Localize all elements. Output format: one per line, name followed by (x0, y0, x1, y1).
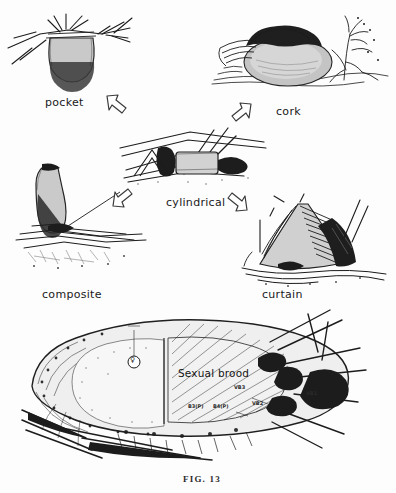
panel-cork-illustration (212, 10, 390, 92)
annotation-b4p: B4(P) (213, 403, 229, 409)
panel-pocket-illustration (6, 8, 136, 88)
panel-label-cylindrical: cylindrical (166, 196, 225, 209)
arrow-to-composite-icon (110, 186, 136, 210)
panel-composite-illustration (14, 164, 164, 280)
nest-section-brood-label: Sexual brood (178, 367, 249, 379)
figure-page: pocket (0, 0, 396, 493)
annotation-vb1: VB1 (306, 390, 317, 396)
annotation-vb3: VB3 (234, 384, 245, 390)
arrow-to-curtain-icon (224, 190, 250, 214)
panel-label-pocket: pocket (45, 96, 84, 109)
queen-marker-glyph: ♀ (130, 356, 135, 364)
panel-curtain-illustration (240, 198, 390, 292)
panel-nest-section-illustration (22, 312, 378, 462)
figure-caption: FIG. 13 (183, 474, 221, 484)
annotation-vb2: VB2 (252, 400, 263, 406)
panel-label-curtain: curtain (262, 288, 303, 301)
arrow-to-pocket-icon (104, 92, 130, 116)
panel-label-composite: composite (42, 288, 102, 301)
arrow-to-cork-icon (228, 100, 254, 124)
annotation-b3p: B3(P) (188, 403, 204, 409)
panel-label-cork: cork (276, 105, 301, 118)
